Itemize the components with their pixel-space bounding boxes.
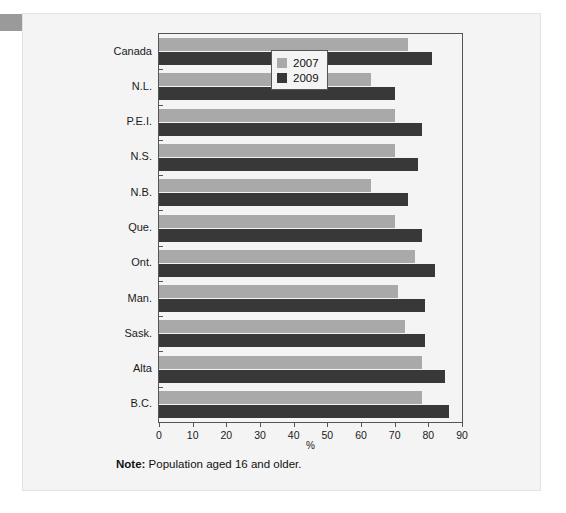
bar-group: Que. <box>159 215 462 242</box>
y-axis-tick <box>159 69 163 70</box>
y-axis-label-que: Que. <box>32 222 152 233</box>
bar-2007-man <box>159 285 398 298</box>
x-axis-tick <box>361 422 362 427</box>
x-axis-tick <box>226 422 227 427</box>
legend-item-2009: 2009 <box>277 70 319 85</box>
y-axis-label-ont: Ont. <box>32 257 152 268</box>
bar-2007-n-b <box>159 179 371 192</box>
y-axis-label-n-l: N.L. <box>32 81 152 92</box>
bar-2007-sask <box>159 320 405 333</box>
bar-group: N.S. <box>159 144 462 171</box>
figure-note-label: Note: <box>116 458 145 470</box>
y-axis-label-alta: Alta <box>32 363 152 374</box>
bar-2009-n-s <box>159 158 418 171</box>
y-axis-label-p-e-i: P.E.I. <box>32 116 152 127</box>
y-axis-label-n-s: N.S. <box>32 151 152 162</box>
y-axis-tick <box>159 140 163 141</box>
legend-swatch-icon-2007 <box>277 58 287 68</box>
bar-2007-n-s <box>159 144 395 157</box>
bar-rows-container: CanadaN.L.P.E.I.N.S.N.B.Que.Ont.Man.Sask… <box>159 34 462 422</box>
y-axis-label-canada: Canada <box>32 46 152 57</box>
bar-2009-b-c <box>159 405 449 418</box>
y-axis-tick <box>159 316 163 317</box>
bar-2007-que <box>159 215 395 228</box>
x-axis-title: % <box>158 440 463 451</box>
x-axis-tick <box>462 422 463 427</box>
bar-2009-man <box>159 299 425 312</box>
chart-legend: 2007 2009 <box>271 50 328 90</box>
bar-group: Sask. <box>159 320 462 347</box>
legend-label-2007: 2007 <box>293 57 319 69</box>
y-axis-tick <box>159 387 163 388</box>
x-axis-tick <box>260 422 261 427</box>
figure-panel: CanadaN.L.P.E.I.N.S.N.B.Que.Ont.Man.Sask… <box>22 13 541 491</box>
bar-2007-p-e-i <box>159 109 395 122</box>
bar-group: Man. <box>159 285 462 312</box>
bar-2009-alta <box>159 370 445 383</box>
bar-group: N.B. <box>159 179 462 206</box>
y-axis-label-n-b: N.B. <box>32 187 152 198</box>
legend-swatch-icon-2009 <box>277 73 287 83</box>
x-axis-tick <box>294 422 295 427</box>
x-axis-tick <box>159 422 160 427</box>
legend-item-2007: 2007 <box>277 55 319 70</box>
bar-2009-sask <box>159 334 425 347</box>
bar-2007-alta <box>159 356 422 369</box>
bar-2007-ont <box>159 250 415 263</box>
y-axis-label-b-c: B.C. <box>32 398 152 409</box>
y-axis-tick <box>159 351 163 352</box>
bar-group: P.E.I. <box>159 109 462 136</box>
x-axis: 0102030405060708090 <box>158 422 463 423</box>
corner-tab-marker <box>0 14 22 31</box>
y-axis-tick <box>159 105 163 106</box>
bar-group: B.C. <box>159 391 462 418</box>
figure-note: Note: Population aged 16 and older. <box>116 458 301 470</box>
x-axis-tick <box>428 422 429 427</box>
bar-2009-ont <box>159 264 435 277</box>
x-axis-tick <box>395 422 396 427</box>
x-axis-tick <box>327 422 328 427</box>
figure-root: CanadaN.L.P.E.I.N.S.N.B.Que.Ont.Man.Sask… <box>0 0 566 513</box>
y-axis-tick <box>159 210 163 211</box>
bar-group: Ont. <box>159 250 462 277</box>
y-axis-tick <box>159 246 163 247</box>
legend-label-2009: 2009 <box>293 72 319 84</box>
bar-group: Alta <box>159 356 462 383</box>
plot-area: CanadaN.L.P.E.I.N.S.N.B.Que.Ont.Man.Sask… <box>158 33 463 423</box>
y-axis-tick <box>159 175 163 176</box>
y-axis-tick <box>159 281 163 282</box>
figure-note-text: Population aged 16 and older. <box>149 458 302 470</box>
y-axis-label-man: Man. <box>32 293 152 304</box>
bar-2007-n-l <box>159 73 371 86</box>
bar-2009-que <box>159 229 422 242</box>
bar-2009-n-b <box>159 193 408 206</box>
bar-2007-b-c <box>159 391 422 404</box>
y-axis-label-sask: Sask. <box>32 328 152 339</box>
x-axis-tick <box>193 422 194 427</box>
bar-2009-p-e-i <box>159 123 422 136</box>
